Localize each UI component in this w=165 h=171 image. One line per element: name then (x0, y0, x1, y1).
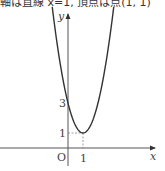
y-tick-1: 1 (59, 127, 66, 140)
y-tick-3: 3 (59, 97, 66, 110)
origin-label: O (57, 151, 66, 164)
parabola-graph: y x O 1 1 3 (0, 0, 165, 171)
y-axis-label: y (57, 10, 65, 23)
x-axis-label: x (150, 150, 157, 163)
x-tick-1: 1 (80, 152, 87, 165)
parabola-curve (52, 7, 114, 133)
